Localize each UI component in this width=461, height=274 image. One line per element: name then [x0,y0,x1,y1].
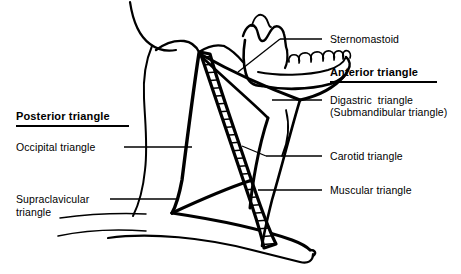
supraclavicular-triangle-label-line2: triangle [16,206,51,219]
anterior-triangle-underline [330,81,437,83]
digastric-triangle-label-line2: (Submandibular triangle) [330,106,447,119]
carotid-triangle-label: Carotid triangle [330,150,403,163]
teeth-row [289,51,351,63]
neck-front-contour [224,46,243,62]
trapezius-anterior-border [172,53,199,213]
mandible-ramus-anterior [285,50,287,68]
nape-contour [133,46,152,216]
omohyoid-inferior-belly [172,180,252,213]
supraclavicular-triangle-label-line1: Supraclavicular [16,193,89,206]
digastric-triangle-label-line1: Digastric triangle [330,94,413,107]
posterior-triangle-underline [16,125,129,127]
omohyoid-superior-belly [250,118,268,208]
mandible-condyle-notch [243,25,287,50]
muscular-triangle-label: Muscular triangle [330,184,412,197]
clavicle-lower-border [108,236,313,263]
sternomastoid-label: Sternomastoid [330,33,399,46]
occipital-triangle-label: Occipital triangle [16,141,95,154]
anterior-triangle-heading: Anterior triangle [330,66,418,79]
anatomy-figure: Posterior triangle Occipital triangle Su… [0,0,461,274]
leader-carotid-b [242,146,266,156]
clavicle-upper-border [172,213,310,250]
mandible-ramus-posterior [244,40,246,74]
posterior-triangle-heading: Posterior triangle [16,110,110,123]
